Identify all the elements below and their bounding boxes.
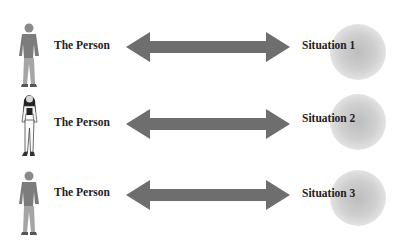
diagram-row-3: The Person Situation 3	[0, 164, 403, 243]
man-figure-icon	[14, 22, 44, 88]
situation-label: Situation 1	[302, 39, 355, 51]
woman-figure-icon	[14, 92, 44, 158]
diagram-row-2: The Person Situation 2	[0, 92, 403, 172]
man-figure-icon	[14, 170, 44, 236]
person-label: The Person	[54, 116, 110, 128]
person-label: The Person	[54, 186, 110, 198]
double-arrow-icon	[126, 180, 290, 210]
situation-label: Situation 2	[302, 112, 355, 124]
double-arrow-icon	[126, 109, 290, 139]
situation-label: Situation 3	[302, 187, 355, 199]
diagram-row-1: The Person Situation 1	[0, 18, 403, 98]
situation-blob	[330, 24, 386, 80]
double-arrow-icon	[126, 32, 290, 62]
person-label: The Person	[54, 39, 110, 51]
